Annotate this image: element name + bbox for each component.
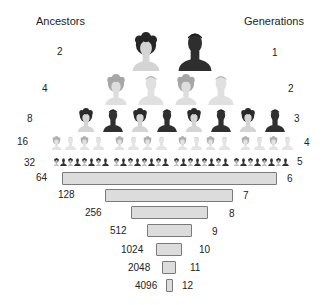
figure-group: [50, 136, 105, 150]
woman-figure-icon: [113, 158, 120, 166]
woman-figure-icon: [267, 136, 280, 150]
man-figure-icon: [190, 136, 203, 150]
man-figure-icon: [88, 158, 95, 166]
generation-label: 10: [199, 244, 210, 256]
man-figure-icon: [102, 158, 109, 166]
man-figure-icon: [148, 158, 155, 166]
man-figure-icon: [154, 108, 180, 132]
woman-figure-icon: [215, 158, 222, 166]
man-figure-icon: [206, 74, 236, 105]
ancestor-bar-gen-10: [156, 243, 182, 256]
man-figure-icon: [253, 136, 266, 150]
generation-label: 11: [190, 262, 200, 274]
generations-header: Generations: [244, 15, 304, 27]
man-figure-icon: [155, 136, 168, 150]
man-figure-icon: [194, 158, 201, 166]
man-figure-icon: [60, 158, 67, 166]
woman-figure-icon: [173, 158, 180, 166]
man-figure-icon: [222, 158, 229, 166]
woman-figure-icon: [171, 74, 201, 105]
ancestor-bar-gen-12: [166, 279, 173, 292]
figure-group: [233, 158, 289, 166]
generation-4-figures: [50, 136, 294, 150]
generation-1-figures: [128, 31, 216, 71]
generation-label: 8: [229, 208, 235, 220]
figure-group: [239, 136, 294, 150]
man-figure-icon: [162, 158, 169, 166]
generation-3-figures: [74, 108, 288, 132]
woman-figure-icon: [67, 158, 74, 166]
man-figure-icon: [218, 136, 231, 150]
man-figure-icon: [281, 136, 294, 150]
man-figure-icon: [64, 136, 77, 150]
man-figure-icon: [282, 158, 289, 166]
woman-figure-icon: [128, 108, 152, 132]
ancestors-label: 2: [57, 46, 63, 58]
ancestors-label: 8: [27, 113, 33, 125]
man-figure-icon: [174, 31, 216, 71]
woman-figure-icon: [155, 158, 162, 166]
woman-figure-icon: [236, 108, 260, 132]
woman-figure-icon: [50, 136, 63, 150]
ancestors-header: Ancestors: [36, 15, 85, 27]
man-figure-icon: [262, 108, 288, 132]
ancestors-label: 128: [58, 189, 75, 201]
woman-figure-icon: [187, 158, 194, 166]
generation-5-figures: [53, 158, 289, 166]
woman-figure-icon: [141, 158, 148, 166]
generation-label: 7: [243, 190, 249, 202]
ancestors-label: 256: [85, 207, 102, 219]
man-figure-icon: [136, 74, 166, 105]
woman-figure-icon: [113, 136, 126, 150]
woman-figure-icon: [141, 136, 154, 150]
generation-label: 6: [287, 173, 293, 185]
woman-figure-icon: [101, 74, 131, 105]
ancestors-label: 4096: [135, 280, 157, 292]
woman-figure-icon: [53, 158, 60, 166]
figure-group: [113, 158, 169, 166]
man-figure-icon: [92, 136, 105, 150]
man-figure-icon: [180, 158, 187, 166]
woman-figure-icon: [204, 136, 217, 150]
woman-figure-icon: [182, 108, 206, 132]
woman-figure-icon: [261, 158, 268, 166]
man-figure-icon: [134, 158, 141, 166]
generation-label: 12: [182, 280, 193, 292]
ancestor-bar-gen-9: [147, 224, 192, 237]
woman-figure-icon: [81, 158, 88, 166]
figure-group: [173, 158, 229, 166]
ancestors-label: 1024: [121, 244, 143, 256]
ancestor-bar-gen-8: [131, 206, 208, 219]
man-figure-icon: [268, 158, 275, 166]
man-figure-icon: [100, 108, 126, 132]
woman-figure-icon: [78, 136, 91, 150]
woman-figure-icon: [239, 136, 252, 150]
man-figure-icon: [74, 158, 81, 166]
ancestor-bar-gen-6: [62, 172, 277, 185]
generation-label: 2: [288, 83, 294, 95]
man-figure-icon: [127, 136, 140, 150]
woman-figure-icon: [275, 158, 282, 166]
figure-group: [176, 136, 231, 150]
figure-group: [113, 136, 168, 150]
man-figure-icon: [120, 158, 127, 166]
ancestor-bar-gen-7: [105, 189, 233, 202]
generation-label: 3: [294, 113, 300, 125]
man-figure-icon: [254, 158, 261, 166]
generation-label: 1: [272, 47, 278, 59]
woman-figure-icon: [201, 158, 208, 166]
man-figure-icon: [208, 108, 234, 132]
generation-2-figures: [101, 74, 236, 105]
woman-figure-icon: [176, 136, 189, 150]
figure-group: [53, 158, 109, 166]
ancestors-label: 2048: [128, 262, 150, 274]
generation-label: 9: [212, 226, 218, 238]
woman-figure-icon: [95, 158, 102, 166]
ancestor-bar-gen-11: [162, 261, 176, 274]
man-figure-icon: [208, 158, 215, 166]
ancestors-label: 32: [24, 157, 35, 169]
woman-figure-icon: [128, 32, 164, 71]
woman-figure-icon: [247, 158, 254, 166]
generation-label: 5: [297, 156, 303, 168]
ancestors-label: 512: [110, 225, 127, 237]
